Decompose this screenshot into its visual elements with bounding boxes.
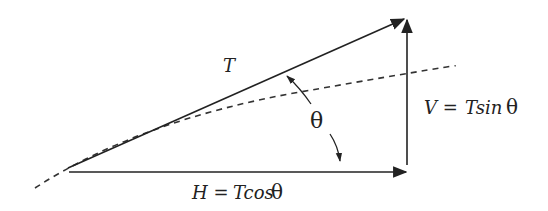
horizontal-formula-lhs: H =	[191, 182, 229, 203]
vertical-formula-theta: θ	[506, 95, 518, 119]
cable-curve	[35, 66, 455, 188]
vertical-formula-rhs: Tsin	[465, 97, 502, 118]
vertical-formula-lhs: V =	[424, 97, 458, 118]
horizontal-formula-rhs: Tcos	[233, 182, 274, 203]
tension-vector-arrow	[68, 19, 404, 168]
angle-arrow-lower	[330, 134, 340, 161]
angle-label: θ	[310, 108, 323, 133]
diagram-canvas: T θ V = Tsin θ H = Tcos θ	[0, 0, 548, 211]
tension-label: T	[223, 55, 237, 76]
vector-diagram: T θ V = Tsin θ H = Tcos θ	[0, 0, 548, 211]
horizontal-formula-theta: θ	[271, 180, 283, 204]
